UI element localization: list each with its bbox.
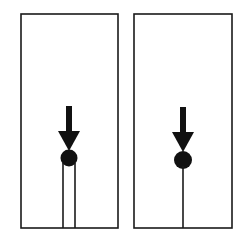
arrow-shaft-icon xyxy=(180,107,186,133)
right-panel xyxy=(134,14,232,228)
diagram-canvas xyxy=(0,0,250,245)
left-panel xyxy=(21,14,118,228)
arrow-shaft-icon xyxy=(66,106,72,132)
figure-root xyxy=(0,0,250,245)
